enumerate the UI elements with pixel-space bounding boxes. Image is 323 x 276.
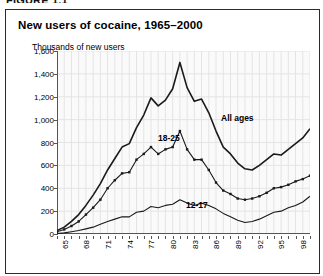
series-marker xyxy=(294,180,296,182)
series-marker xyxy=(57,231,58,233)
series-marker xyxy=(280,186,282,188)
series-marker xyxy=(164,148,166,150)
chart-lines xyxy=(57,51,310,234)
x-tick-mark xyxy=(303,236,304,239)
x-tick-mark xyxy=(173,236,174,239)
x-tick-mark xyxy=(274,236,275,239)
y-tick-label: 400 xyxy=(18,184,54,193)
x-tick-label: 98 xyxy=(299,240,308,249)
series-marker xyxy=(273,187,275,189)
series-marker xyxy=(150,146,152,148)
series-marker xyxy=(143,153,145,155)
y-tick-label: 600 xyxy=(18,161,54,170)
series-marker xyxy=(208,169,210,171)
x-tick-mark xyxy=(288,236,289,239)
x-tick-label: 80 xyxy=(169,240,178,249)
y-tick-label: 200 xyxy=(18,207,54,216)
y-tick-mark xyxy=(54,234,58,235)
plot-area xyxy=(57,51,310,234)
x-tick-label: 77 xyxy=(147,240,156,249)
series-label-18-25: 18-25 xyxy=(158,133,180,143)
series-marker xyxy=(244,198,246,200)
series-marker xyxy=(237,197,239,199)
x-tick-mark xyxy=(93,236,94,239)
x-tick-label: 95 xyxy=(277,240,286,249)
x-tick-mark xyxy=(100,236,101,239)
x-tick-mark xyxy=(281,236,282,239)
series-marker xyxy=(179,130,181,132)
x-tick-label: 89 xyxy=(234,240,243,249)
x-tick-mark xyxy=(259,236,260,239)
gridlines xyxy=(57,51,310,234)
series-marker xyxy=(229,193,231,195)
series-marker xyxy=(70,225,72,227)
series-marker xyxy=(287,184,289,186)
x-tick-mark xyxy=(238,236,239,239)
series-marker xyxy=(193,158,195,160)
x-tick-label: 71 xyxy=(104,240,113,249)
figure-kicker: FIGURE 1.1 xyxy=(6,0,68,3)
x-tick-mark xyxy=(79,236,80,239)
x-tick-mark xyxy=(71,236,72,239)
series-marker xyxy=(258,195,260,197)
y-tick-label: 1,400 xyxy=(18,69,54,78)
series-marker xyxy=(215,181,217,183)
x-tick-mark xyxy=(64,236,65,239)
x-tick-mark xyxy=(151,236,152,239)
x-tick-mark xyxy=(267,236,268,239)
chart-title: New users of cocaine, 1965–2000 xyxy=(18,19,203,31)
x-tick-mark xyxy=(202,236,203,239)
x-tick-mark xyxy=(223,236,224,239)
x-tick-mark xyxy=(245,236,246,239)
y-tick-label: 1,600 xyxy=(18,47,54,56)
x-tick-mark xyxy=(252,236,253,239)
x-tick-mark xyxy=(296,236,297,239)
x-tick-mark xyxy=(137,236,138,239)
x-tick-mark xyxy=(230,236,231,239)
x-tick-mark xyxy=(310,236,311,239)
series-marker xyxy=(77,220,79,222)
series-line xyxy=(57,196,310,233)
x-tick-mark xyxy=(180,236,181,239)
series-marker xyxy=(92,206,94,208)
series-marker xyxy=(222,189,224,191)
series-marker xyxy=(171,146,173,148)
x-tick-mark xyxy=(122,236,123,239)
series-label-12-17: 12-17 xyxy=(186,200,208,210)
series-marker xyxy=(128,171,130,173)
x-tick-label: 83 xyxy=(191,240,200,249)
x-tick-mark xyxy=(158,236,159,239)
x-tick-mark xyxy=(144,236,145,239)
series-marker xyxy=(186,148,188,150)
series-marker xyxy=(114,179,116,181)
figure-container: FIGURE 1.1 New users of cocaine, 1965–20… xyxy=(0,0,323,276)
x-tick-mark xyxy=(194,236,195,239)
series-marker xyxy=(302,178,304,180)
y-tick-label: 0 xyxy=(18,230,54,239)
x-tick-mark xyxy=(165,236,166,239)
y-tick-label: 800 xyxy=(18,138,54,147)
x-tick-mark xyxy=(129,236,130,239)
series-marker xyxy=(121,172,123,174)
series-marker xyxy=(85,213,87,215)
series-marker xyxy=(200,158,202,160)
x-tick-mark xyxy=(209,236,210,239)
series-marker xyxy=(106,187,108,189)
series-marker xyxy=(135,158,137,160)
x-tick-label: 74 xyxy=(126,240,135,249)
x-tick-mark xyxy=(108,236,109,239)
y-tick-label: 1,200 xyxy=(18,92,54,101)
x-tick-mark xyxy=(216,236,217,239)
x-tick-label: 86 xyxy=(212,240,221,249)
series-line xyxy=(57,131,310,232)
series-marker xyxy=(265,192,267,194)
x-tick-label: 68 xyxy=(82,240,91,249)
x-tick-label: 92 xyxy=(256,240,265,249)
series-marker xyxy=(63,228,65,230)
series-marker xyxy=(251,197,253,199)
series-marker xyxy=(157,153,159,155)
x-axis-tick-labels: 656871747780838689929598 xyxy=(57,236,310,270)
x-tick-mark xyxy=(187,236,188,239)
y-axis-tick-labels: 02004006008001,0001,2001,4001,600 xyxy=(14,51,54,234)
series-marker xyxy=(99,198,101,200)
